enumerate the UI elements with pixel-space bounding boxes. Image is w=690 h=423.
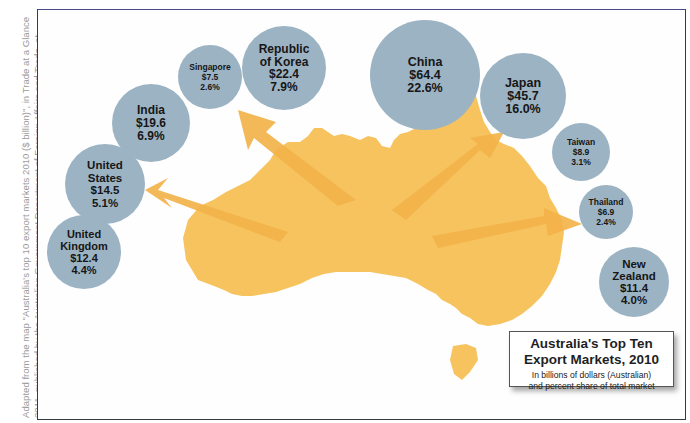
legend-title: Australia's Top Ten Export Markets, 2010 [510,336,673,368]
market-share: 22.6% [407,82,442,95]
bubble-japan: Japan $45.7 16.0% [480,53,566,139]
market-share: 16.0% [505,103,540,116]
market-name: Japan [505,77,541,90]
market-share: 7.9% [270,81,297,94]
market-name: Taiwan [567,137,595,147]
legend-title-line2: Export Markets, 2010 [510,352,673,368]
legend-subtitle-line1: In billions of dollars (Australian) [510,370,673,381]
market-name: States [88,172,123,185]
market-share: 2.4% [596,217,615,227]
market-value: $22.4 [269,68,299,81]
market-name: Kingdom [60,240,108,252]
market-name: India [137,104,165,117]
bubble-china: China $64.4 22.6% [370,20,480,130]
legend-subtitle: In billions of dollars (Australian) and … [510,370,673,391]
market-share: 4.0% [621,294,647,306]
bubble-republic-of-korea: Republic of Korea $22.4 7.9% [242,26,326,110]
market-value: $14.5 [91,184,120,197]
market-name: Republic [259,43,310,56]
market-share: 3.1% [571,157,590,167]
map-legend: Australia's Top Ten Export Markets, 2010… [509,331,674,387]
legend-title-line1: Australia's Top Ten [510,336,673,352]
market-name: United [67,228,101,240]
market-name: United [87,159,123,172]
market-name: Thailand [589,197,624,207]
bubble-india: India $19.6 6.9% [112,84,190,162]
market-name: Zealand [612,270,655,282]
market-value: $19.6 [136,117,166,130]
market-name: New [622,258,646,270]
bubble-thailand: Thailand $6.9 2.4% [579,185,633,239]
market-share: 5.1% [92,197,118,210]
market-value: $64.4 [409,69,440,82]
market-share: 2.6% [200,82,219,92]
bubble-new-zealand: New Zealand $11.4 4.0% [599,247,669,317]
market-value: $45.7 [507,90,538,103]
map-frame: United Kingdom $12.4 4.4% United States … [37,9,686,420]
tasmania [450,344,478,380]
legend-subtitle-line2: and percent share of total market [510,381,673,392]
bubble-united-kingdom: United Kingdom $12.4 4.4% [47,215,121,289]
source-credit: Adapted from the map "Australia's top 10… [2,0,38,423]
market-value: $6.9 [598,207,615,217]
bubble-singapore: Singapore $7.5 2.6% [178,45,242,109]
market-share: 4.4% [71,264,96,276]
market-value: $8.9 [573,147,590,157]
market-value: $11.4 [620,282,648,294]
market-share: 6.9% [137,130,164,143]
market-value: $12.4 [70,252,98,264]
market-name: China [408,56,443,69]
bubble-taiwan: Taiwan $8.9 3.1% [552,123,610,181]
market-name: Singapore [189,62,231,72]
market-value: $7.5 [202,72,219,82]
